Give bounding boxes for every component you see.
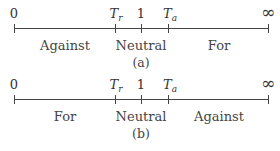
tick-one [141, 95, 142, 104]
tick-label-tr-sub: r [118, 84, 122, 94]
tick-infinity [268, 95, 269, 104]
tick-infinity [268, 24, 269, 33]
tick-label-tr: Tr [110, 6, 123, 23]
tick-zero [14, 95, 15, 104]
tick-label-ta-sub: a [172, 84, 177, 94]
tick-tr [115, 24, 116, 33]
number-line-a: 0 Tr 1 Ta ∞ Against Neutral For (a) [0, 0, 280, 72]
tick-label-ta: Ta [163, 77, 177, 94]
region-label-right: For [208, 38, 230, 53]
tick-ta [168, 95, 169, 104]
tick-zero [14, 24, 15, 33]
tick-label-zero: 0 [10, 77, 18, 92]
tick-tr [115, 95, 116, 104]
number-line-b: 0 Tr 1 Ta ∞ For Neutral Against (b) [0, 71, 280, 143]
tick-label-zero: 0 [10, 6, 18, 21]
tick-label-tr-sub: r [118, 13, 122, 23]
region-label-middle: Neutral [116, 38, 167, 53]
tick-label-tr: Tr [110, 77, 123, 94]
tick-label-ta-main: T [163, 6, 172, 21]
tick-label-ta: Ta [163, 6, 177, 23]
region-label-left: Against [40, 38, 90, 53]
tick-label-tr-main: T [110, 77, 119, 92]
tick-one [141, 24, 142, 33]
caption-b: (b) [132, 126, 150, 141]
tick-label-ta-main: T [163, 77, 172, 92]
caption-a: (a) [132, 55, 149, 70]
tick-label-ta-sub: a [172, 13, 177, 23]
tick-ta [168, 24, 169, 33]
tick-label-infinity: ∞ [261, 2, 275, 22]
region-label-left: For [54, 109, 76, 124]
tick-label-tr-main: T [110, 6, 119, 21]
tick-label-one: 1 [137, 6, 145, 21]
region-label-middle: Neutral [116, 109, 167, 124]
tick-label-infinity: ∞ [261, 73, 275, 93]
tick-label-one: 1 [137, 77, 145, 92]
region-label-right: Against [194, 109, 244, 124]
